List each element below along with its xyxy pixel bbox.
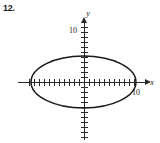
figure-panel: 12. bbox=[0, 0, 160, 143]
y-axis-label: y bbox=[85, 9, 90, 18]
x-axis-label: x bbox=[149, 78, 154, 87]
coordinate-plot: x y 10 10 bbox=[0, 0, 160, 143]
y-axis-tick-label-10: 10 bbox=[69, 26, 77, 35]
x-axis-tick-label-10: 10 bbox=[132, 88, 140, 97]
